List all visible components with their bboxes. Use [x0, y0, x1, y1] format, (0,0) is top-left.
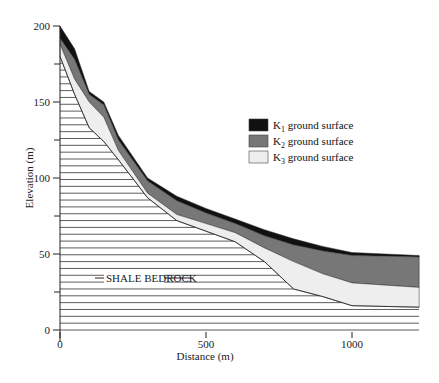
y-tick-label: 50	[39, 248, 51, 260]
legend: K1 ground surfaceK2 ground surfaceK3 gro…	[249, 119, 353, 166]
x-ticks: 05001000	[57, 332, 363, 350]
y-tick-label: 100	[34, 172, 51, 184]
legend-swatch	[249, 135, 268, 147]
chart-svg: 050100150200 05001000 Distance (m) Eleva…	[0, 0, 439, 383]
chart: 050100150200 05001000 Distance (m) Eleva…	[0, 0, 439, 383]
legend-label: K2 ground surface	[273, 135, 353, 150]
y-tick-label: 0	[45, 324, 51, 336]
bedrock-label: SHALE BEDROCK	[106, 272, 197, 284]
legend-label: K1 ground surface	[273, 119, 353, 134]
y-axis-label: Elevation (m)	[23, 147, 36, 208]
x-axis-label: Distance (m)	[176, 350, 233, 363]
k2-layer	[60, 38, 419, 287]
x-tick-label: 500	[198, 338, 215, 350]
y-tick-label: 200	[34, 20, 51, 32]
legend-swatch	[249, 151, 268, 163]
x-tick-label: 0	[57, 338, 63, 350]
legend-swatch	[249, 119, 268, 131]
x-tick-label: 1000	[341, 338, 364, 350]
y-ticks: 050100150200	[34, 20, 61, 336]
y-tick-label: 150	[34, 96, 51, 108]
legend-label: K3 ground surface	[273, 151, 353, 166]
